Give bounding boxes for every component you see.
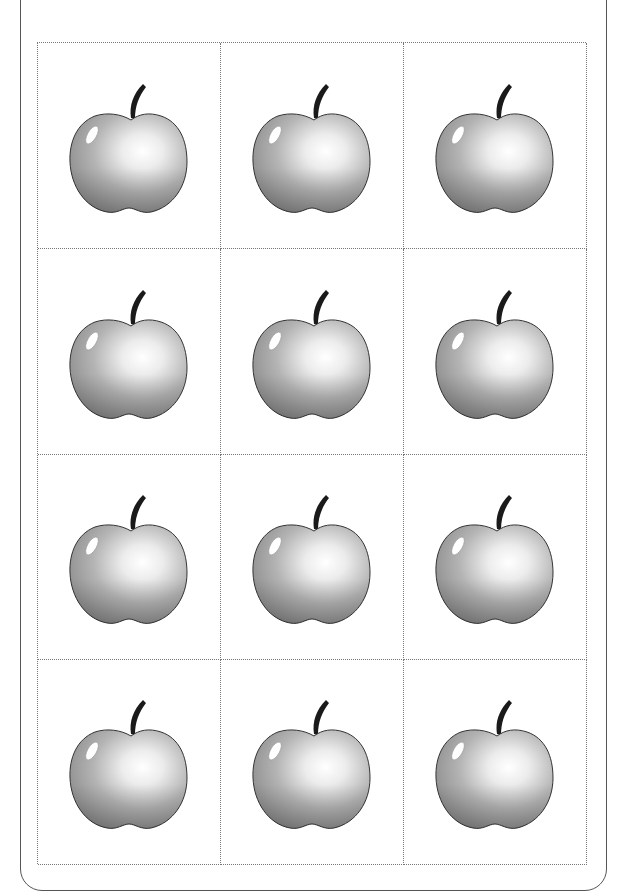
apple-icon — [433, 487, 558, 627]
apple-icon — [67, 692, 192, 832]
grid-cell — [38, 249, 221, 455]
apple-icon — [250, 282, 375, 422]
grid-cell — [38, 43, 221, 249]
apple-icon — [250, 692, 375, 832]
grid-cell — [221, 43, 404, 249]
grid-cell — [404, 455, 587, 660]
apple-icon — [67, 487, 192, 627]
apple-icon — [433, 76, 558, 216]
grid-cell — [221, 249, 404, 455]
grid-cell — [404, 660, 587, 865]
grid-cell — [221, 660, 404, 865]
grid-cell — [404, 43, 587, 249]
apple-grid — [37, 42, 586, 864]
apple-icon — [250, 76, 375, 216]
apple-icon — [67, 76, 192, 216]
grid-cell — [38, 660, 221, 865]
apple-icon — [433, 282, 558, 422]
apple-icon — [250, 487, 375, 627]
apple-icon — [67, 282, 192, 422]
grid-cell — [38, 455, 221, 660]
apple-icon — [433, 692, 558, 832]
grid-cell — [404, 249, 587, 455]
grid-cell — [221, 455, 404, 660]
